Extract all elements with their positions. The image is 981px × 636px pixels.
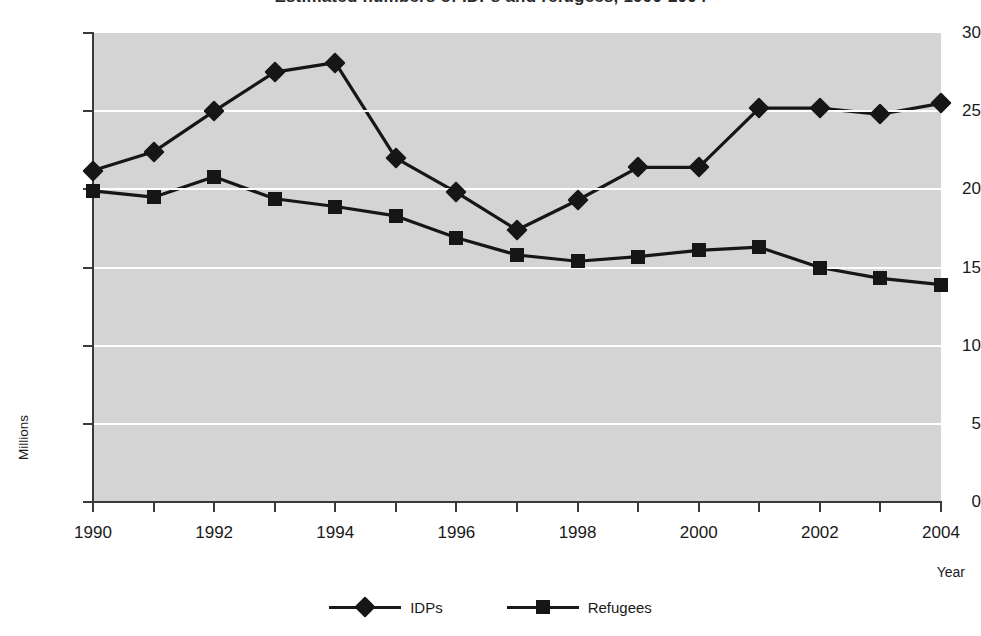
- x-axis-tick-label: 1992: [179, 524, 249, 541]
- line-chart: Estimated numbers of IDPs and refugees, …: [0, 0, 981, 636]
- gridline: [93, 188, 941, 190]
- data-point-refugees-1994: [328, 200, 342, 214]
- x-axis-tick: [940, 502, 942, 512]
- legend-marker-diamond-icon: [329, 598, 401, 616]
- x-axis-tick-label: 1994: [300, 524, 370, 541]
- x-axis-tick: [698, 502, 700, 512]
- y-axis-tick: [83, 110, 93, 112]
- data-point-refugees-1996: [449, 231, 463, 245]
- x-axis-tick: [758, 502, 760, 512]
- data-point-refugees-1993: [268, 192, 282, 206]
- data-point-refugees-1999: [631, 250, 645, 264]
- x-axis-tick: [92, 502, 94, 512]
- x-axis-tick: [455, 502, 457, 512]
- x-axis-tick: [274, 502, 276, 512]
- y-axis-tick: [83, 32, 93, 34]
- y-axis-tick-label: 15: [907, 259, 981, 276]
- legend-label-refugees: Refugees: [588, 599, 652, 616]
- series-line-idps: [93, 63, 941, 230]
- x-axis-tick: [637, 502, 639, 512]
- x-axis-tick-label: 2000: [664, 524, 734, 541]
- y-axis-tick-label: 10: [907, 337, 981, 354]
- gridline: [93, 345, 941, 347]
- legend-item-refugees: Refugees: [507, 598, 652, 616]
- x-axis-tick-label: 2004: [906, 524, 976, 541]
- x-axis-label: Year: [937, 564, 965, 580]
- data-point-refugees-2000: [692, 243, 706, 257]
- data-point-refugees-2003: [873, 271, 887, 285]
- x-axis-tick: [879, 502, 881, 512]
- data-point-refugees-1995: [389, 209, 403, 223]
- y-axis-tick-label: 0: [907, 493, 981, 510]
- x-axis-tick: [819, 502, 821, 512]
- data-point-refugees-2002: [813, 261, 827, 275]
- y-axis-tick-label: 5: [907, 415, 981, 432]
- x-axis-tick: [334, 502, 336, 512]
- y-axis-tick: [83, 345, 93, 347]
- data-point-refugees-1990: [86, 184, 100, 198]
- data-point-refugees-1998: [571, 254, 585, 268]
- x-axis-tick: [577, 502, 579, 512]
- x-axis-tick-label: 1998: [543, 524, 613, 541]
- y-axis-label: Millions: [16, 398, 31, 478]
- data-point-refugees-1992: [207, 170, 221, 184]
- data-point-refugees-2001: [752, 240, 766, 254]
- data-point-refugees-1997: [510, 248, 524, 262]
- data-point-refugees-2004: [934, 278, 948, 292]
- x-axis-tick-label: 2002: [785, 524, 855, 541]
- y-axis-tick: [83, 423, 93, 425]
- y-axis-tick-label: 30: [907, 24, 981, 41]
- x-axis-tick-label: 1990: [58, 524, 128, 541]
- x-axis-tick-label: 1996: [421, 524, 491, 541]
- legend-marker-square-icon: [507, 598, 579, 616]
- x-axis-tick: [395, 502, 397, 512]
- y-axis-tick: [83, 267, 93, 269]
- legend-label-idps: IDPs: [410, 599, 443, 616]
- chart-legend: IDPs Refugees: [0, 598, 981, 616]
- chart-title: Estimated numbers of IDPs and refugees, …: [0, 0, 981, 7]
- data-point-refugees-1991: [147, 190, 161, 204]
- x-axis-tick: [153, 502, 155, 512]
- x-axis-tick: [213, 502, 215, 512]
- y-axis-tick-label: 20: [907, 180, 981, 197]
- legend-item-idps: IDPs: [329, 598, 443, 616]
- x-axis-tick: [516, 502, 518, 512]
- gridline: [93, 423, 941, 425]
